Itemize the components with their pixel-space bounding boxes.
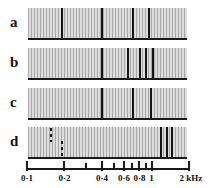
harmonic-comb-icon (28, 88, 187, 118)
panel-c-spectrum (28, 88, 187, 118)
axis-line (27, 168, 189, 170)
axis-tick-0.8 (138, 161, 140, 171)
panel-d: d (0, 125, 213, 165)
panel-b-spectrum (28, 48, 187, 78)
marker-b-4 (145, 48, 147, 78)
axis-tick-label-2: 2 kHz (179, 173, 202, 183)
marker-d-3 (160, 127, 162, 157)
axis-tick-2 (188, 161, 190, 171)
panel-d-label: d (10, 134, 18, 149)
marker-d-4 (166, 127, 168, 157)
panel-b: b (0, 46, 213, 86)
axis-tick-0.1 (26, 161, 28, 171)
panel-c: c (0, 86, 213, 126)
panel-a-spectrum (28, 8, 187, 38)
marker-a-2 (101, 8, 103, 38)
axis-tick-label-0.6: 0·6 (118, 173, 130, 183)
marker-a-1 (61, 8, 63, 38)
panel-a-label: a (10, 15, 18, 30)
axis-tick-label-0.4: 0·4 (96, 173, 108, 183)
axis-tick-0.5 (113, 163, 115, 169)
frequency-axis: 0·10·20·40·60·812 kHz (0, 160, 213, 188)
marker-d-1 (50, 128, 52, 142)
marker-c-1 (101, 88, 103, 118)
axis-tick-label-0.8: 0·8 (133, 173, 145, 183)
axis-tick-label-0.1: 0·1 (21, 173, 33, 183)
panel-a: a (0, 6, 213, 46)
panel-a-baseline (28, 38, 187, 40)
axis-tick-0.2 (63, 161, 65, 171)
panel-d-spectrum (28, 127, 187, 157)
axis-tick-0.4 (101, 161, 103, 171)
panel-b-baseline (28, 78, 187, 80)
axis-tick-1 (151, 161, 153, 171)
axis-tick-0.9 (145, 163, 147, 169)
marker-a-3 (132, 8, 134, 38)
marker-b-3 (139, 48, 141, 78)
panel-c-label: c (10, 95, 17, 110)
harmonic-comb-icon (28, 127, 187, 157)
harmonic-comb-icon (28, 8, 187, 38)
marker-b-1 (101, 48, 103, 78)
axis-tick-0.6 (123, 161, 125, 171)
marker-a-4 (148, 8, 150, 38)
marker-d-5 (171, 127, 173, 157)
spectra-figure: a b c d 0·10·20·40·60·8 (0, 0, 213, 188)
axis-tick-label-0.2: 0·2 (58, 173, 70, 183)
harmonic-comb-icon (28, 48, 187, 78)
panel-b-label: b (10, 55, 18, 70)
axis-tick-0.3 (85, 163, 87, 169)
marker-b-2 (127, 48, 129, 78)
marker-d-2 (61, 141, 63, 157)
axis-tick-0.7 (131, 163, 133, 169)
panel-c-baseline (28, 118, 187, 120)
marker-c-3 (150, 88, 152, 118)
marker-b-5 (152, 48, 154, 78)
panel-d-baseline (28, 157, 187, 159)
marker-c-2 (132, 88, 134, 118)
axis-tick-label-1: 1 (149, 173, 154, 183)
